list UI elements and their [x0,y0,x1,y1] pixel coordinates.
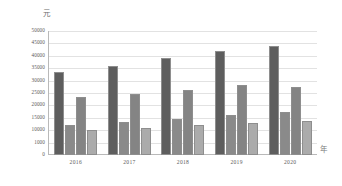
bar [130,94,140,155]
y-axis-tick-labels: 0100010000150002000025000300003500040000… [0,31,45,155]
bar [54,72,64,155]
bar-chart: 元 01000100001500020000250003000035000400… [0,0,342,186]
y-axis-tick-label: 15000 [32,115,45,120]
y-axis-tick-label: 50000 [32,28,45,33]
bar [87,130,97,155]
y-axis-tick-label: 35000 [32,66,45,71]
x-axis-unit-label: 年 [320,146,327,154]
bar-group [156,31,210,155]
bar [161,58,171,155]
bar-groups [49,31,317,155]
y-axis-tick-label: 40000 [32,53,45,58]
y-axis-tick-label: 20000 [32,103,45,108]
y-axis-tick-label: 1000 [34,140,45,145]
y-axis-tick-label: 25000 [32,90,45,95]
bar-group [103,31,157,155]
bar-group [49,31,103,155]
bar [291,87,301,155]
bar-group [210,31,264,155]
bar [237,85,247,155]
bar [119,122,129,155]
x-axis-tick-label: 2018 [156,160,210,166]
x-axis-tick-labels: 20162017201820192020 [49,160,317,166]
bar [226,115,236,155]
bar [141,128,151,155]
bar [215,51,225,155]
bar [172,119,182,155]
bar [108,66,118,155]
x-axis-tick-label: 2019 [210,160,264,166]
bar-group [263,31,317,155]
y-axis-tick-label: 45000 [32,41,45,46]
y-axis-tick-label: 30000 [32,78,45,83]
bar [269,46,279,155]
bar [194,125,204,155]
bar [65,125,75,156]
y-axis-unit-label: 元 [43,10,50,18]
y-axis-tick-label: 0 [42,152,45,157]
x-axis-tick-label: 2020 [263,160,317,166]
bar [76,97,86,155]
bar [302,121,312,155]
y-axis-tick-label: 10000 [32,128,45,133]
x-axis-tick-label: 2016 [49,160,103,166]
x-axis-tick-label: 2017 [103,160,157,166]
bar [183,90,193,155]
bar [280,112,290,155]
bar [248,123,258,155]
